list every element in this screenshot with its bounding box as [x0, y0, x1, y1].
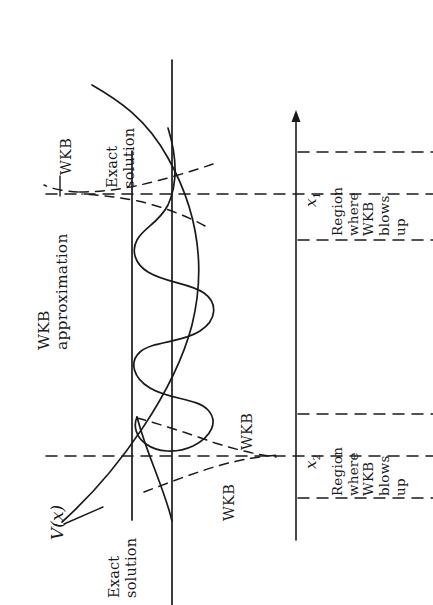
wkb-approximation-label-line1: WKB [36, 233, 54, 350]
blowup-region-label-x2: Region where WKB blows up [330, 447, 408, 496]
potential-label: V(x) [48, 505, 67, 540]
turning-point-1-label: x1 [303, 192, 323, 207]
blowup-region-x2-line4: blows [377, 447, 393, 496]
exact-solution-label-top: Exact solution [104, 128, 138, 188]
exact-solution-label-top-line1: Exact [104, 128, 121, 188]
wkb-label-mid-upper: WKB [239, 413, 255, 450]
figure-canvas: V(x) WKB approximation WKB Exact solutio… [0, 0, 433, 605]
blowup-region-label-x1: Region where WKB blows up [330, 187, 408, 236]
exact-solution-label-bottom-line1: Exact [106, 538, 123, 598]
exact-solution-label-bottom-line2: solution [123, 538, 140, 598]
wkb-approximation-label-line2: approximation [54, 233, 72, 350]
blowup-region-x1-line4: blows [377, 187, 393, 236]
turning-point-1-symbol: x [302, 199, 320, 207]
turning-point-2-label: x2 [303, 454, 323, 469]
blowup-region-x2-line1: Region [330, 447, 346, 496]
exact-solution-label-top-line2: solution [121, 128, 138, 188]
blowup-region-x2-line3: WKB [361, 447, 377, 496]
wkb-curve-lower [137, 418, 278, 492]
x-axis [292, 110, 301, 540]
blowup-region-x1-line1: Region [330, 187, 346, 236]
blowup-region-x2-line2: where [346, 447, 362, 496]
wkb-label-upper: WKB [58, 138, 74, 175]
wkb-approximation-label: WKB approximation [36, 233, 72, 350]
exact-solution-label-bottom: Exact solution [106, 538, 140, 598]
blowup-region-x1-line3: WKB [361, 187, 377, 236]
wkb-label-mid-lower: WKB [221, 484, 237, 521]
turning-point-1-subscript: 1 [311, 192, 322, 198]
turning-point-2-subscript: 2 [311, 454, 322, 460]
blowup-region-x2-line5: up [393, 447, 409, 496]
blowup-region-x1-line2: where [346, 187, 362, 236]
blowup-region-x1-line5: up [393, 187, 409, 236]
exact-solution-curve [134, 128, 214, 521]
turning-point-2-symbol: x [302, 461, 320, 469]
